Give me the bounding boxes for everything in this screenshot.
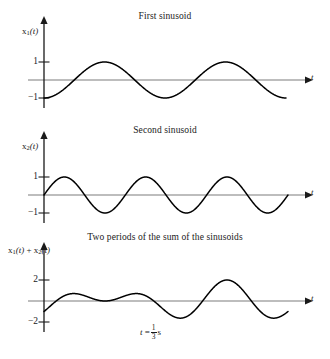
plot-panel-sum-of-sinusoids: Two periods of the sum of the sinusoids …	[0, 230, 330, 359]
plot-panel-second-sinusoid: Second sinusoid x2(t) t 1 −1	[0, 115, 330, 230]
plot-canvas	[0, 230, 330, 359]
plot-panel-first-sinusoid: First sinusoid x1(t) t 1 −1	[0, 0, 330, 115]
sinusoid-figure: First sinusoid x1(t) t 1 −1 Second sinus…	[0, 0, 330, 359]
plot-canvas	[0, 0, 330, 115]
plot-canvas	[0, 115, 330, 230]
